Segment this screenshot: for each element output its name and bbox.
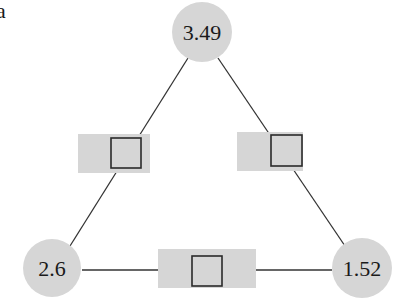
box-top-left: [78, 134, 150, 173]
node-top: 3.49: [172, 2, 232, 62]
edge-box-background: [78, 134, 150, 173]
edge-box-background: [158, 249, 256, 288]
node-value: 3.49: [183, 20, 222, 45]
node-right: 1.52: [332, 238, 392, 298]
node-left: 2.6: [23, 239, 81, 297]
edge-boxes: [78, 132, 303, 288]
triangle-graph-diagram: a 3.492.61.52: [0, 0, 396, 298]
edge-box-background: [237, 132, 303, 171]
box-bottom: [158, 249, 256, 288]
node-value: 2.6: [38, 256, 66, 281]
node-value: 1.52: [343, 256, 382, 281]
panel-label: a: [0, 0, 6, 23]
box-top-right: [237, 132, 303, 171]
